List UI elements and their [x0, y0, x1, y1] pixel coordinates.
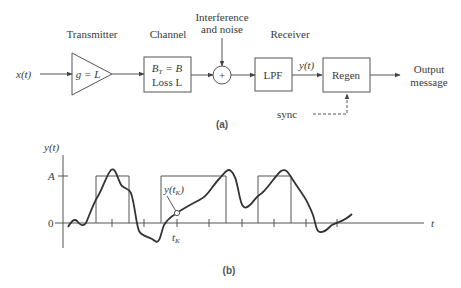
sync-dashed-arrow — [313, 94, 347, 114]
lpf-label: LPF — [264, 69, 283, 81]
channel-title: Channel — [150, 28, 187, 40]
output-label-2: message — [410, 76, 447, 88]
caption-a: (a) — [216, 119, 228, 130]
sample-point-marker — [174, 210, 179, 215]
summer-plus: + — [219, 69, 225, 81]
y-axis-label: y(t) — [43, 141, 60, 154]
channel-bandwidth-label: BT = B — [152, 62, 183, 76]
level-a-label: A — [47, 170, 55, 182]
channel-loss-label: Loss L — [152, 76, 183, 88]
block-diagram: x(t) Transmitter g = L Channel BT = B Lo… — [15, 11, 448, 130]
time-axis-label: t — [431, 217, 435, 229]
input-label: x(t) — [15, 68, 32, 81]
sample-time-label: tK — [172, 231, 180, 245]
interference-title-2: and noise — [201, 23, 243, 35]
transmitted-pulses — [96, 176, 291, 223]
interference-title-1: Interference — [195, 11, 248, 23]
transmitter-gain-label: g = L — [76, 68, 101, 80]
regen-label: Regen — [332, 69, 361, 81]
caption-b: (b) — [223, 265, 236, 276]
level-0-label: 0 — [48, 217, 54, 229]
receiver-title: Receiver — [270, 28, 309, 40]
y-signal-label: y(t) — [298, 59, 315, 72]
sync-label: sync — [277, 108, 297, 120]
transmitter-title: Transmitter — [67, 28, 118, 40]
output-label-1: Output — [414, 63, 445, 75]
received-waveform — [68, 169, 352, 241]
waveform-plot: y(t) A 0 t y(tK) tK (b) — [43, 141, 435, 276]
digital-regeneration-diagram: x(t) Transmitter g = L Channel BT = B Lo… — [0, 0, 461, 288]
sample-value-label: y(tK) — [163, 183, 184, 197]
